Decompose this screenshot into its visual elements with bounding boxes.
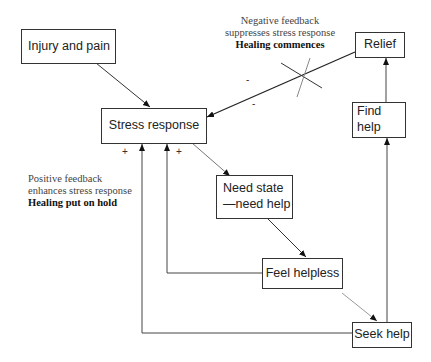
node-label: Find help — [357, 104, 405, 135]
minus-sign-bottom: - — [252, 98, 255, 109]
edge-relief-to-stress — [207, 52, 355, 117]
annotation-emphasis: Healing commences — [210, 39, 350, 51]
block-cross-mark-2 — [297, 58, 310, 97]
edge-helpless-to-seek — [342, 293, 377, 321]
annotation-negative-feedback: Negative feedback suppresses stress resp… — [210, 15, 350, 51]
annotation-line: suppresses stress response — [210, 27, 350, 39]
annotation-line: Positive feedback — [28, 173, 163, 185]
node-need-state: Need state —need help — [216, 175, 293, 219]
annotation-line: enhances stress response — [28, 185, 163, 197]
edge-need-to-helpless — [267, 218, 306, 257]
node-label: Injury and pain — [28, 39, 110, 55]
annotation-positive-feedback: Positive feedback enhances stress respon… — [28, 173, 163, 209]
edge-seek-to-stress — [142, 144, 352, 333]
node-label-line1: Need state — [223, 181, 283, 197]
node-find-help: Find help — [352, 102, 406, 138]
edge-injury-to-stress — [96, 63, 150, 107]
node-feel-helpless: Feel helpless — [262, 258, 343, 289]
minus-sign-top: - — [246, 74, 249, 85]
node-label-line2: —need help — [223, 197, 290, 213]
node-injury-and-pain: Injury and pain — [21, 29, 116, 64]
node-label: Stress response — [109, 118, 199, 134]
node-label: Feel helpless — [266, 266, 340, 282]
plus-sign-left: + — [122, 146, 128, 157]
node-stress-response: Stress response — [101, 108, 207, 144]
node-relief: Relief — [355, 32, 405, 58]
node-seek-help: Seek help — [352, 322, 412, 348]
annotation-emphasis: Healing put on hold — [28, 197, 163, 209]
annotation-line: Negative feedback — [210, 15, 350, 27]
node-label: Relief — [364, 37, 396, 53]
node-label: Seek help — [354, 327, 410, 343]
edge-stress-to-need — [192, 143, 230, 176]
plus-sign-right: + — [176, 146, 182, 157]
